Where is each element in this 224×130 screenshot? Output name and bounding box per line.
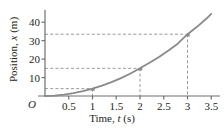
y-axis-title-symbol: x (7, 36, 19, 41)
x-tick-label-2: 1.5 (109, 101, 123, 112)
origin-label: O (28, 99, 36, 110)
x-axis-title-unit: (s) (121, 112, 135, 124)
y-axis-title-prefix: Position, (7, 40, 19, 82)
x-tick-label-0: 0.5 (62, 101, 76, 112)
guide-lines-group (45, 34, 188, 96)
x-tick-label-1: 1 (90, 101, 96, 112)
y-tick-label-1: 20 (22, 54, 40, 65)
axes-group (38, 10, 220, 100)
y-axis-title-unit: (m) (7, 17, 19, 36)
y-tick-label-0: 10 (22, 72, 40, 83)
position-time-graph-figure: 10203040 0.511.522.533.5 O Time, t (s) P… (0, 0, 224, 130)
y-tick-label-3: 40 (22, 17, 40, 28)
x-axis-title: Time, t (s) (0, 113, 224, 124)
x-tick-label-6: 3.5 (204, 101, 218, 112)
x-tick-label-4: 2.5 (157, 101, 171, 112)
y-axis-title: Position, x (m) (8, 2, 19, 98)
x-tick-label-5: 3 (185, 101, 191, 112)
y-tick-label-2: 30 (22, 35, 40, 46)
data-point-markers (90, 32, 189, 91)
x-axis-title-prefix: Time, (89, 112, 117, 124)
x-tick-label-3: 2 (137, 101, 143, 112)
position-curve (45, 14, 211, 96)
